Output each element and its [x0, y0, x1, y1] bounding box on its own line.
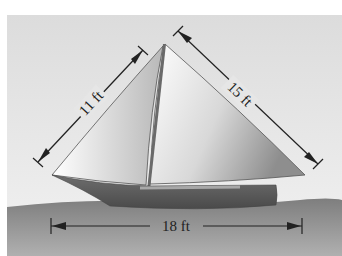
sailboat-diagram: 11 ft 15 ft 18 ft — [0, 0, 342, 256]
diagram-canvas: 11 ft 15 ft 18 ft — [0, 0, 342, 256]
deck — [140, 187, 240, 188]
label-18ft: 18 ft — [162, 218, 191, 234]
